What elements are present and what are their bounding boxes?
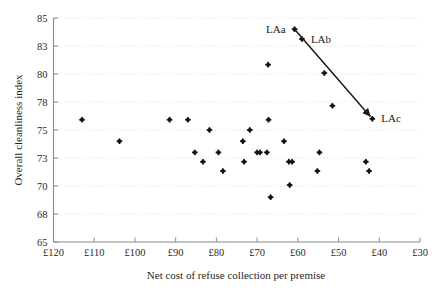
data-point-marker xyxy=(185,117,191,123)
point-spike-v xyxy=(291,159,293,165)
point-spike-v xyxy=(368,168,370,174)
y-tick-label: 83 xyxy=(37,41,48,52)
data-point-marker xyxy=(265,62,271,68)
data-point-marker xyxy=(366,168,372,174)
data-point-marker xyxy=(241,159,247,165)
point-spike-v xyxy=(194,150,196,156)
data-point-marker xyxy=(207,127,213,133)
x-tick-label: £70 xyxy=(249,247,265,258)
x-tick-label: £30 xyxy=(412,247,428,258)
data-point-marker xyxy=(200,159,206,165)
gridlines xyxy=(54,18,421,242)
x-tick-label: £90 xyxy=(168,247,184,258)
x-tick-label: £40 xyxy=(371,247,387,258)
y-tick-label: 73 xyxy=(37,153,48,164)
point-spike-v xyxy=(270,194,272,200)
x-axis-title: Net cost of refuse collection per premis… xyxy=(147,269,325,281)
x-tick-label: £50 xyxy=(331,247,347,258)
data-points xyxy=(79,26,375,200)
point-spike-v xyxy=(372,116,374,122)
x-tick-label: £100 xyxy=(124,247,145,258)
point-spike-v xyxy=(169,117,171,123)
x-tick-label: £110 xyxy=(84,247,105,258)
data-point-marker xyxy=(257,150,263,156)
y-axis-title: Overall cleanliness index xyxy=(12,74,24,186)
data-point-marker xyxy=(117,138,123,144)
point-spike-v xyxy=(119,138,121,144)
x-tick-label: £60 xyxy=(290,247,306,258)
point-spike-v xyxy=(266,150,268,156)
data-point-marker xyxy=(287,182,293,188)
y-tick-label: 75 xyxy=(37,125,48,136)
y-tick-label: 65 xyxy=(37,237,48,248)
point-spike-v xyxy=(81,117,83,123)
data-point-marker xyxy=(264,150,270,156)
data-point-marker xyxy=(240,138,246,144)
data-point-marker xyxy=(266,117,272,123)
data-point-marker xyxy=(330,103,336,109)
y-tick-label: 78 xyxy=(37,97,48,108)
y-tick-label: 68 xyxy=(37,209,48,220)
data-point-marker xyxy=(216,150,222,156)
y-tick-label: 80 xyxy=(37,69,48,80)
x-axis-ticks: £120£110£100£90£80£70£60£50£40£30 xyxy=(43,238,428,259)
point-spike-v xyxy=(209,127,211,133)
data-point-marker xyxy=(322,70,328,76)
point-spike-v xyxy=(317,168,319,174)
point-spike-v xyxy=(283,138,285,144)
point-spike-v xyxy=(202,159,204,165)
x-tick-label: £80 xyxy=(209,247,225,258)
scatter-chart-figure: £120£110£100£90£80£70£60£50£40£30 858380… xyxy=(0,0,441,290)
data-point-marker xyxy=(289,159,295,165)
y-axis-ticks: 858380787573706865 xyxy=(37,13,58,248)
data-point-marker xyxy=(167,117,173,123)
data-point-marker xyxy=(363,159,369,165)
y-tick-label: 85 xyxy=(37,13,48,24)
data-point-marker xyxy=(281,138,287,144)
x-tick-label: £120 xyxy=(43,247,64,258)
data-point-marker xyxy=(315,168,321,174)
point-label-lac: LAc xyxy=(381,112,401,124)
point-spike-v xyxy=(332,103,334,109)
point-spike-v xyxy=(242,138,244,144)
data-point-marker xyxy=(370,116,376,122)
point-spike-v xyxy=(319,150,321,156)
data-point-marker xyxy=(268,194,274,200)
point-label-lab: LAb xyxy=(311,33,332,45)
data-point-marker xyxy=(220,168,226,174)
point-spike-v xyxy=(267,62,269,68)
data-point-marker xyxy=(247,127,253,133)
data-point-marker xyxy=(317,150,323,156)
point-spike-v xyxy=(259,150,261,156)
point-spike-v xyxy=(187,117,189,123)
point-spike-v xyxy=(323,70,325,76)
y-tick-label: 70 xyxy=(37,181,48,192)
data-point-marker xyxy=(79,117,85,123)
point-spike-v xyxy=(289,182,291,188)
point-spike-v xyxy=(243,159,245,165)
point-spike-v xyxy=(365,159,367,165)
point-spike-v xyxy=(222,168,224,174)
point-spike-v xyxy=(218,150,220,156)
plot-canvas: £120£110£100£90£80£70£60£50£40£30 858380… xyxy=(0,0,441,290)
point-spike-v xyxy=(249,127,251,133)
point-label-laa: LAa xyxy=(266,23,286,35)
data-point-marker xyxy=(192,150,198,156)
point-spike-v xyxy=(268,117,270,123)
